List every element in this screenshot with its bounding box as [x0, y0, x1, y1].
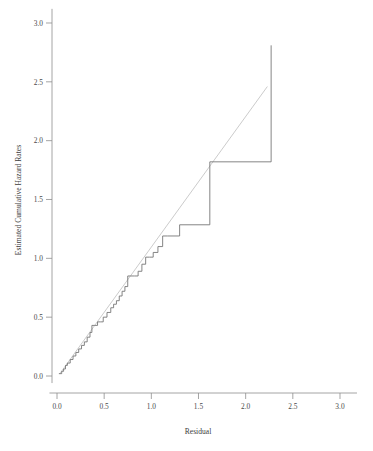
reference-line-series — [60, 87, 268, 374]
x-tick-label: 2.5 — [288, 402, 298, 411]
y-tick-label: 3.0 — [34, 19, 44, 28]
x-tick-label: 1.0 — [147, 402, 157, 411]
y-tick-label: 1.0 — [34, 254, 44, 263]
y-tick-label: 0.0 — [34, 372, 44, 381]
cumulative-hazard-step-series — [59, 45, 271, 373]
y-tick-label: 1.5 — [34, 195, 44, 204]
y-tick-label: 2.5 — [34, 78, 44, 87]
chart-figure: 0.00.51.01.52.02.53.0 0.00.51.01.52.02.5… — [0, 0, 373, 451]
x-axis-title: Residual — [185, 427, 212, 436]
x-axis-ticks: 0.00.51.01.52.02.53.0 — [52, 393, 345, 411]
x-tick-label: 2.0 — [241, 402, 251, 411]
x-tick-label: 3.0 — [335, 402, 345, 411]
x-tick-label: 1.5 — [194, 402, 204, 411]
y-axis-title: Estimated Cumulative Hazard Rates — [14, 145, 23, 255]
x-tick-label: 0.0 — [52, 402, 62, 411]
y-tick-label: 0.5 — [34, 313, 44, 322]
y-axis-ticks: 0.00.51.01.52.02.53.0 — [34, 19, 52, 381]
x-tick-label: 0.5 — [100, 402, 110, 411]
hazard-plot: 0.00.51.01.52.02.53.0 0.00.51.01.52.02.5… — [0, 0, 373, 451]
y-tick-label: 2.0 — [34, 136, 44, 145]
